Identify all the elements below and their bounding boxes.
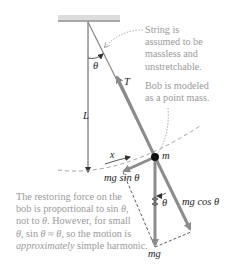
mg-sin-label: mg sin θ [104, 172, 140, 183]
length-label: L [83, 110, 89, 121]
mass-label: m [162, 150, 170, 161]
theta-arc-bottom [157, 193, 166, 196]
displacement-label: x [110, 149, 114, 160]
displacement-arrow [105, 157, 130, 164]
theta-top-label: θ [93, 60, 98, 71]
bob-callout [158, 108, 168, 153]
bob [151, 153, 159, 161]
dashed-component-line [155, 232, 191, 247]
restoring-force-note: The restoring force on the bob is propor… [16, 191, 148, 252]
weight-label: mg [148, 248, 161, 259]
ceiling [58, 15, 120, 21]
string-callout [105, 30, 143, 47]
theta-arc-top [88, 54, 103, 59]
arc-path [58, 126, 200, 171]
mg-sin-arrow [124, 157, 155, 171]
bob-note: Bob is modeled as a point mass. [145, 80, 210, 104]
string-note: String is assumed to be massless and uns… [145, 24, 203, 73]
theta-bottom-label: θ [162, 197, 167, 208]
mg-cos-arrow [155, 157, 190, 229]
tension-label: T [124, 76, 130, 87]
mg-cos-label: mg cos θ [182, 196, 219, 207]
